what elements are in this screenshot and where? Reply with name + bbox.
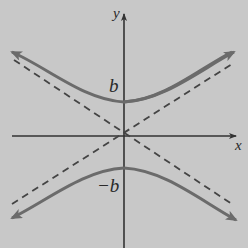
lower-vertex-label: −b — [97, 176, 119, 195]
x-axis-label: x — [235, 138, 242, 153]
y-axis-label: y — [113, 6, 120, 21]
lower-branch-right — [124, 168, 236, 220]
diagram-canvas — [0, 0, 248, 248]
upper-vertex-label: b — [109, 76, 119, 95]
upper-branch — [12, 52, 232, 102]
hyperbola-diagram: y x b −b — [0, 0, 248, 248]
